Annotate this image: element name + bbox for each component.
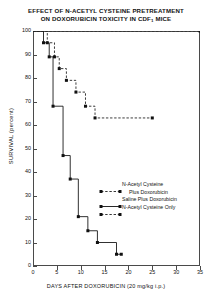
x-tick-mark [105, 266, 106, 270]
x-tick-label: 0 [24, 270, 42, 275]
x-tick-mark [57, 266, 58, 270]
figure-root: EFFECT OF N-ACETYL CYSTEINE PRETREATMENT… [0, 0, 212, 304]
legend-label: N-Acetyl Cysteine [122, 181, 163, 187]
legend-item: Saline Plus Doxorubicin [99, 196, 197, 203]
x-tick-mark [81, 266, 82, 270]
data-point-marker [120, 253, 123, 256]
legend-label-continued: Plus Doxorubicin [129, 189, 197, 196]
x-tick-mark [152, 266, 153, 270]
x-tick-label: 20 [119, 270, 137, 275]
series-n-acetyl-cysteine-only [33, 31, 200, 33]
data-point-marker [77, 215, 80, 218]
data-point-marker [48, 55, 51, 58]
legend-symbol [99, 181, 122, 188]
data-point-marker [65, 79, 68, 82]
data-point-marker [96, 241, 99, 244]
data-point-marker [42, 41, 45, 44]
legend-item: N-Acetyl Cysteine Only [99, 204, 197, 211]
legend-symbol [99, 204, 122, 211]
data-point-marker [58, 67, 61, 70]
x-tick-mark [176, 266, 177, 270]
x-tick-label: 15 [96, 270, 114, 275]
series-line [33, 31, 152, 118]
series-line [33, 31, 121, 254]
chart-data-layer [33, 31, 200, 266]
data-point-marker [86, 229, 89, 232]
x-tick-label: 25 [143, 270, 161, 275]
x-tick-mark [128, 266, 129, 270]
data-point-marker [94, 116, 97, 119]
data-point-marker [62, 154, 65, 157]
chart-legend: N-Acetyl CysteinePlus DoxorubicinSaline … [99, 181, 197, 212]
data-point-marker [52, 105, 55, 108]
data-point-marker [151, 116, 154, 119]
legend-symbol [99, 196, 122, 203]
data-point-marker [69, 178, 72, 181]
x-tick-label: 5 [48, 270, 66, 275]
legend-item: N-Acetyl Cysteine [99, 181, 197, 188]
data-point-marker [199, 31, 201, 33]
series-n-acetyl-cysteine-plus-doxorubicin [33, 31, 154, 119]
x-tick-label: 35 [191, 270, 209, 275]
legend-label: N-Acetyl Cysteine Only [122, 204, 175, 210]
x-tick-mark [200, 266, 201, 270]
series-saline-plus-doxorubicin [33, 31, 123, 256]
y-axis-title: SURVIVAL (percent) [8, 86, 14, 186]
data-point-marker [84, 105, 87, 108]
data-point-marker [115, 253, 118, 256]
x-axis-title: DAYS AFTER DOXORUBICIN (20 mg/kg i.p.) [0, 283, 212, 289]
legend-label: Saline Plus Doxorubicin [122, 196, 177, 202]
data-point-marker [74, 91, 77, 94]
x-tick-label: 10 [72, 270, 90, 275]
x-tick-label: 30 [167, 270, 185, 275]
